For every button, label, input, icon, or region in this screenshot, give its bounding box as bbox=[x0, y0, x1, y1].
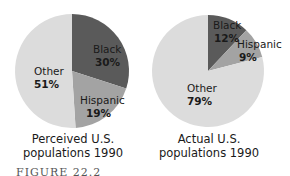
label-black-actual: Black bbox=[213, 19, 242, 31]
value-black-actual: 12% bbox=[214, 32, 240, 44]
caption-perceived: Perceived U.S. populations 1990 bbox=[3, 132, 143, 160]
figure-label: FIGURE 22.2 bbox=[16, 166, 101, 176]
label-hispanic-actual: Hispanic bbox=[237, 38, 282, 50]
caption-actual-line2: populations 1990 bbox=[139, 146, 279, 160]
caption-actual: Actual U.S. populations 1990 bbox=[139, 132, 279, 160]
pie-perceived bbox=[15, 14, 129, 128]
value-hispanic-actual: 9% bbox=[239, 51, 257, 63]
caption-perceived-line2: populations 1990 bbox=[3, 146, 143, 160]
caption-actual-line1: Actual U.S. bbox=[139, 132, 279, 146]
value-hispanic-perceived: 19% bbox=[86, 107, 112, 119]
label-black-perceived: Black bbox=[93, 43, 122, 55]
pie-actual bbox=[152, 15, 264, 127]
label-other-actual: Other bbox=[187, 82, 217, 94]
value-black-perceived: 30% bbox=[95, 56, 121, 68]
value-other-actual: 79% bbox=[187, 95, 213, 107]
label-hispanic-perceived: Hispanic bbox=[80, 94, 125, 106]
label-other-perceived: Other bbox=[34, 65, 64, 77]
caption-perceived-line1: Perceived U.S. bbox=[3, 132, 143, 146]
value-other-perceived: 51% bbox=[34, 78, 60, 90]
